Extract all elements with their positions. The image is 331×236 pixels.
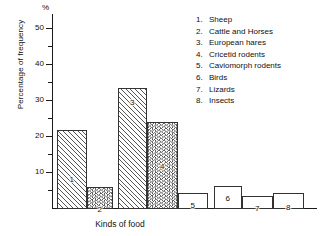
y-tick-label: 40 (22, 59, 44, 68)
legend-item-label: Cricetid rodents (209, 50, 265, 59)
legend-item-label: Sheep (209, 15, 232, 24)
legend-item-number: 2. (196, 26, 209, 38)
legend-item-number: 6. (196, 72, 209, 84)
legend-item-3: 3.European hares (196, 37, 281, 49)
y-axis-line (52, 14, 53, 209)
bar-label-1: 1 (70, 175, 74, 184)
y-axis-title: Percentage of frequency (16, 0, 25, 145)
legend-item-2: 2.Cattle and Horses (196, 26, 281, 38)
legend-item-7: 7.Lizards (196, 84, 281, 96)
bar-label-4: 4 (160, 162, 164, 171)
legend: 1.Sheep2.Cattle and Horses3.European har… (196, 14, 281, 107)
bar-label-6: 6 (226, 194, 230, 203)
bar-label-5: 5 (191, 201, 195, 210)
y-tick-label: 10 (22, 167, 44, 176)
y-tick-label: 30 (22, 95, 44, 104)
y-tick-minor (48, 190, 52, 191)
legend-item-number: 4. (196, 49, 209, 61)
bar-chart: % Percentage of frequency 1020304050 123… (0, 0, 331, 236)
legend-item-number: 3. (196, 37, 209, 49)
y-tick-minor (48, 46, 52, 47)
legend-item-number: 1. (196, 14, 209, 26)
legend-item-number: 5. (196, 60, 209, 72)
bar-label-3: 3 (130, 98, 134, 107)
y-axis-unit: % (42, 3, 49, 12)
y-tick-major (46, 136, 52, 137)
legend-item-number: 8. (196, 95, 209, 107)
legend-item-1: 1.Sheep (196, 14, 281, 26)
y-tick-major (46, 100, 52, 101)
bar-1 (57, 130, 87, 209)
legend-item-6: 6.Birds (196, 72, 281, 84)
y-tick-minor (48, 154, 52, 155)
legend-item-label: Cattle and Horses (209, 27, 273, 36)
y-tick-major (46, 28, 52, 29)
y-tick-minor (48, 82, 52, 83)
y-tick-label: 20 (22, 131, 44, 140)
legend-item-label: Insects (209, 96, 234, 105)
legend-item-number: 7. (196, 84, 209, 96)
legend-item-label: Lizards (209, 85, 235, 94)
legend-item-label: Caviomorph rodents (209, 61, 281, 70)
x-axis-title: Kinds of food (0, 219, 240, 229)
legend-item-8: 8.Insects (196, 95, 281, 107)
bar-label-8: 8 (286, 203, 290, 212)
bar-label-7: 7 (255, 204, 259, 213)
y-tick-major (46, 172, 52, 173)
bar-label-2: 2 (98, 205, 102, 214)
y-tick-label: 50 (22, 23, 44, 32)
legend-item-label: Birds (209, 73, 227, 82)
legend-item-5: 5.Caviomorph rodents (196, 60, 281, 72)
y-tick-minor (48, 118, 52, 119)
y-tick-major (46, 64, 52, 65)
legend-item-label: European hares (209, 38, 266, 47)
legend-item-4: 4.Cricetid rodents (196, 49, 281, 61)
